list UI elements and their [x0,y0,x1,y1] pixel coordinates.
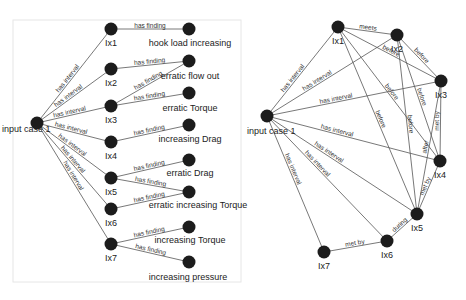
node-dot[interactable] [105,203,118,216]
node-f5[interactable]: erratic Drag [166,154,213,179]
node-ix4[interactable]: Ix4 [105,136,118,162]
node-dot[interactable] [105,172,118,185]
node-dot[interactable] [183,55,196,68]
edge-label: has finding [133,158,166,173]
node-ix2[interactable]: Ix2 [105,63,118,89]
left-graph: has intervalhas intervalhas intervalhas … [2,22,247,283]
edge-case-ix2 [267,35,397,116]
node-label: Ix2 [391,44,403,54]
node-label: Ix6 [381,250,393,260]
edge-label: has finding [134,56,166,67]
edge-label: met by [345,237,366,248]
edge-label: has interval [319,91,354,105]
edge-ix1-ix5 [338,27,417,214]
node-ix2[interactable]: Ix2 [391,29,404,55]
node-ix6[interactable]: Ix6 [105,203,118,229]
edge-label: has interval [284,152,304,186]
node-label: erratic increasing Torque [149,200,247,210]
node-f2[interactable]: erratic flow out [161,55,220,82]
node-ix5[interactable]: Ix5 [411,208,424,234]
node-ix3[interactable]: Ix3 [435,75,448,101]
node-dot[interactable] [105,63,118,76]
edge-case-ix6 [37,123,111,209]
edge-label: has finding [134,175,167,188]
node-label: Ix3 [105,115,117,125]
node-f3[interactable]: erratic Torque [163,87,218,114]
edge-label: before [374,109,388,129]
node-dot[interactable] [183,23,196,36]
node-dot[interactable] [183,119,196,132]
node-label: input case 1 [247,126,296,136]
node-label: increasing Drag [158,134,221,144]
edge-label: before [413,46,431,64]
node-label: Ix1 [105,38,117,48]
edge-label: has finding [134,22,166,30]
edge-ix2-ix3 [397,35,441,81]
node-label: Ix3 [435,90,447,100]
node-ix7[interactable]: Ix7 [105,238,118,264]
node-dot[interactable] [434,155,447,168]
node-case[interactable]: input case 1 [2,117,51,135]
node-f8[interactable]: increasing pressure [149,256,228,283]
edge-label: during [390,216,409,234]
node-dot[interactable] [261,110,274,123]
node-f7[interactable]: increasing Torque [155,221,226,246]
node-label: Ix7 [105,253,117,263]
node-label: erratic Torque [163,103,218,113]
node-label: hook load increasing [149,38,232,48]
node-dot[interactable] [435,75,448,88]
node-label: Ix4 [105,151,117,161]
node-f4[interactable]: increasing Drag [158,119,221,145]
node-dot[interactable] [105,100,118,113]
node-label: Ix5 [411,223,423,233]
node-dot[interactable] [105,23,118,36]
node-dot[interactable] [105,136,118,149]
node-dot[interactable] [332,21,345,34]
node-ix4[interactable]: Ix4 [434,155,447,181]
node-dot[interactable] [411,208,424,221]
edge-label: has finding [133,89,166,102]
node-label: Ix1 [332,36,344,46]
node-dot[interactable] [105,238,118,251]
node-dot[interactable] [391,29,404,42]
node-label: input case 1 [2,124,51,134]
edge-label: has interval [301,68,333,92]
node-label: erratic flow out [161,71,220,81]
node-label: Ix5 [105,187,117,197]
node-ix5[interactable]: Ix5 [105,172,118,198]
node-label: erratic Drag [166,168,213,178]
node-dot[interactable] [183,256,196,269]
node-label: Ix6 [105,218,117,228]
node-dot[interactable] [183,154,196,167]
node-label: Ix2 [105,78,117,88]
node-ix7[interactable]: Ix7 [318,246,331,272]
edge-label: has finding [133,69,165,92]
nodes: input case 1Ix1Ix2Ix3Ix4Ix5Ix6Ix7 [247,21,448,272]
node-label: increasing Torque [155,235,226,245]
node-dot[interactable] [183,221,196,234]
node-label: increasing pressure [149,272,228,282]
node-ix3[interactable]: Ix3 [105,100,118,126]
node-label: Ix4 [434,170,446,180]
interval-graphs: has intervalhas intervalhas intervalhas … [0,0,466,300]
node-dot[interactable] [318,246,331,259]
right-graph: has intervalhas intervalhas intervalhas … [247,21,448,272]
node-ix6[interactable]: Ix6 [381,235,394,261]
edge-case-ix7 [267,116,324,252]
node-dot[interactable] [183,87,196,100]
node-case[interactable]: input case 1 [247,110,296,137]
node-dot[interactable] [381,235,394,248]
edge-label: has interval [320,123,354,138]
nodes: input case 1Ix1Ix2Ix3Ix4Ix5Ix6Ix7hook lo… [2,23,247,283]
edge-label: met by [418,175,433,197]
node-dot[interactable] [183,186,196,199]
node-label: Ix7 [318,261,330,271]
